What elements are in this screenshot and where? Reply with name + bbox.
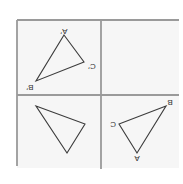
- vertex-label-a: A: [134, 154, 140, 163]
- vertex-label-c: C: [110, 120, 116, 129]
- quadrant-background: [17, 20, 179, 168]
- vertex-label-b-prime: B′: [26, 83, 33, 92]
- quadrant-diagram: A′ C′ B′ B C A: [0, 0, 183, 184]
- vertex-label-b: B: [167, 98, 172, 107]
- vertex-label-c-prime: C′: [88, 62, 96, 71]
- vertex-label-a-prime: A′: [60, 27, 67, 36]
